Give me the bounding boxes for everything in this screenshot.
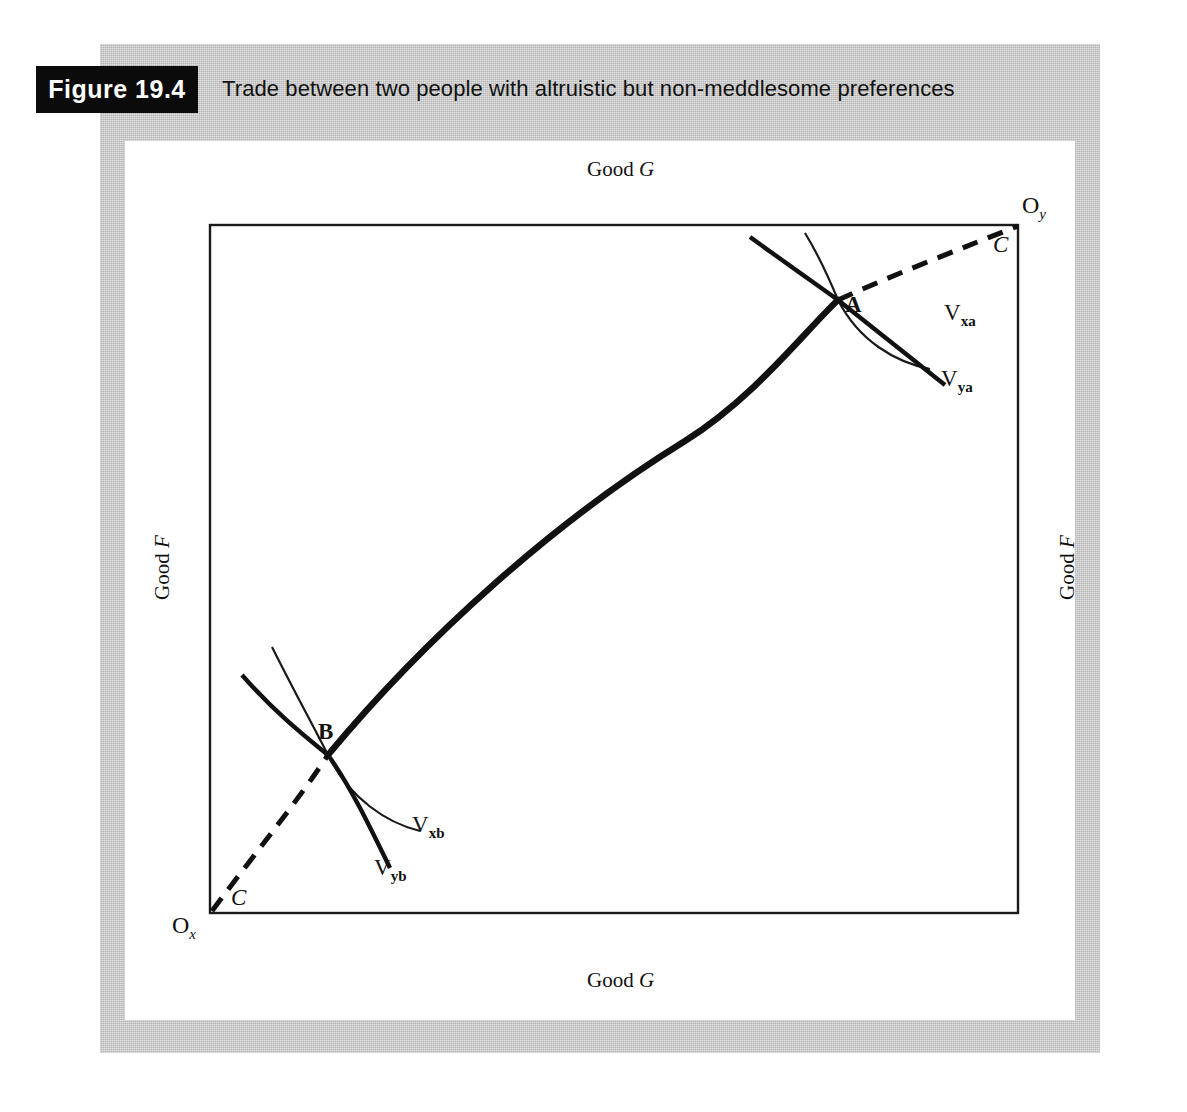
figure-title: Trade between two people with altruistic… <box>222 76 1042 102</box>
curve-label-vya-base: V <box>941 366 958 391</box>
curve-label-vxb: Vxb <box>412 812 444 842</box>
axis-label-left-text: Good <box>150 548 174 600</box>
origin-oy-base: O <box>1022 192 1039 218</box>
indifference-curve-vxa <box>805 233 930 369</box>
origin-ox-base: O <box>172 912 189 938</box>
axis-label-bottom-text: Good <box>587 968 639 992</box>
chart-stage <box>125 141 1075 1020</box>
axis-label-right-italic: F <box>1055 535 1079 548</box>
origin-ox-sub: x <box>189 926 196 942</box>
curve-label-vxa-sub: xa <box>961 313 976 329</box>
figure-number-label: Figure 19.4 <box>48 75 186 104</box>
curve-label-vyb-base: V <box>374 855 391 880</box>
axis-label-top-italic: G <box>639 157 654 181</box>
origin-oy-sub: y <box>1039 206 1046 222</box>
axis-label-left-italic: F <box>150 535 174 548</box>
curve-label-vya-sub: ya <box>958 379 973 395</box>
contract-curve-dashed-upper <box>838 226 1018 300</box>
curve-label-vya: Vya <box>941 366 973 396</box>
axis-label-right-text: Good <box>1055 548 1079 600</box>
point-label-b: B <box>318 719 333 745</box>
contract-curve-solid <box>328 300 838 755</box>
origin-label-ox: Ox <box>172 912 196 943</box>
axis-label-bottom: Good G <box>587 968 654 993</box>
point-label-a: A <box>845 292 862 318</box>
axis-label-left: Good F <box>150 535 175 600</box>
figure-number-tab: Figure 19.4 <box>36 66 198 113</box>
curve-label-vxa-base: V <box>944 300 961 325</box>
curve-label-vyb-sub: yb <box>391 868 407 884</box>
axis-label-top-text: Good <box>587 157 639 181</box>
axis-label-bottom-italic: G <box>639 968 654 992</box>
axis-label-top: Good G <box>587 157 654 182</box>
axis-label-right: Good F <box>1055 535 1080 600</box>
chart-svg <box>125 141 1075 1020</box>
contract-curve-label-lower: C <box>231 885 246 911</box>
figure-root: Figure 19.4 Trade between two people wit… <box>0 0 1187 1112</box>
origin-label-oy: Oy <box>1022 192 1046 223</box>
curve-label-vxb-sub: xb <box>429 825 445 841</box>
curve-label-vxa: Vxa <box>944 300 976 330</box>
curve-label-vxb-base: V <box>412 812 429 837</box>
contract-curve-label-upper: C <box>993 232 1008 258</box>
edgeworth-box <box>210 225 1018 913</box>
contract-curve-dashed-lower <box>212 755 328 911</box>
curve-label-vyb: Vyb <box>374 855 406 885</box>
